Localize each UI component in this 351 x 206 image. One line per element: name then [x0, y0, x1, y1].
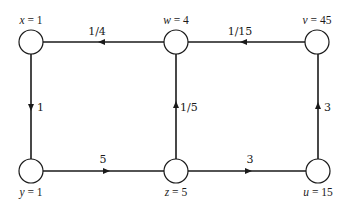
- arrow-up-icon: [173, 101, 179, 108]
- node-v: v = 45: [303, 14, 332, 54]
- node-circle: [306, 159, 330, 183]
- node-w: w = 4: [163, 14, 189, 54]
- node-circle: [305, 30, 329, 54]
- edge-z-to-u: 3: [188, 153, 306, 174]
- edge-label-z-w: 1/5: [180, 101, 198, 114]
- edge-label-w-x: 1/4: [88, 25, 106, 38]
- edge-y-to-z: 5: [43, 153, 164, 174]
- edge-label-x-y: 1: [37, 101, 44, 114]
- node-label-z: z = 5: [164, 186, 188, 198]
- edge-label-y-z: 5: [100, 153, 107, 166]
- edge-label-z-u: 3: [247, 153, 254, 166]
- arrow-left-icon: [240, 39, 247, 45]
- edge-label-u-v: 3: [324, 101, 331, 114]
- node-label-u: u = 15: [303, 186, 333, 198]
- node-x: x = 1: [18, 14, 43, 54]
- node-circle: [164, 30, 188, 54]
- node-circle: [19, 30, 43, 54]
- graph-diagram: 1/4 1/15 1 1/5 3 5: [0, 0, 351, 206]
- node-y: y = 1: [18, 159, 43, 199]
- edge-v-to-w: 1/15: [188, 25, 305, 45]
- edge-z-to-w: 1/5: [173, 54, 198, 159]
- arrow-down-icon: [28, 104, 34, 111]
- arrow-left-icon: [98, 39, 105, 45]
- node-label-w: w = 4: [163, 14, 189, 26]
- node-label-v: v = 45: [303, 14, 332, 26]
- arrow-up-icon: [315, 102, 321, 109]
- node-circle: [164, 159, 188, 183]
- edge-w-to-x: 1/4: [43, 25, 164, 45]
- arrow-right-icon: [103, 168, 110, 174]
- arrow-right-icon: [245, 168, 252, 174]
- node-label-y: y = 1: [18, 186, 42, 199]
- edge-u-to-v: 3: [315, 54, 331, 159]
- node-circle: [19, 159, 43, 183]
- node-label-x: x = 1: [18, 14, 42, 26]
- edge-x-to-y: 1: [28, 54, 44, 159]
- node-z: z = 5: [164, 159, 188, 198]
- edge-label-v-w: 1/15: [228, 25, 253, 38]
- node-u: u = 15: [303, 159, 333, 198]
